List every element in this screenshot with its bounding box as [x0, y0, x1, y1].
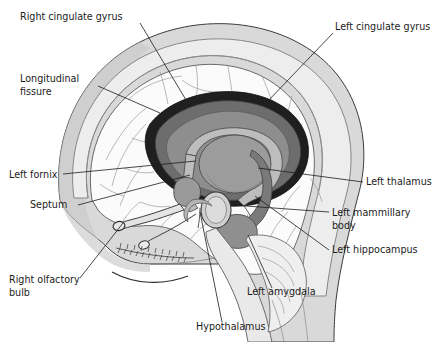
label-left-thalamus: Left thalamus [366, 176, 432, 187]
label-line: Right cingulate gyrus [20, 11, 123, 22]
label-left-hippocampus: Left hippocampus [332, 244, 418, 255]
brain-limbic-system-diagram: Right cingulate gyrusLongitudinalfissure… [0, 0, 441, 342]
label-line: Left hippocampus [332, 244, 418, 255]
label-line: body [332, 220, 356, 231]
label-line: Right olfactory [9, 274, 80, 285]
label-left-amygdala: Left amygdala [247, 286, 316, 297]
label-line: Left cingulate gyrus [335, 21, 430, 32]
mammillary-body-group [201, 192, 231, 228]
label-line: Septum [30, 199, 67, 210]
label-line: Left amygdala [247, 286, 316, 297]
label-hypothalamus: Hypothalamus [196, 321, 266, 332]
label-left-cingulate-gyrus: Left cingulate gyrus [335, 21, 430, 32]
label-line: Longitudinal [20, 73, 79, 84]
label-septum: Septum [30, 199, 67, 210]
label-line: Left fornix [9, 169, 58, 180]
mammillary-body-inner [206, 197, 227, 224]
label-right-cingulate-gyrus: Right cingulate gyrus [20, 11, 123, 22]
label-left-fornix: Left fornix [9, 169, 58, 180]
label-line: bulb [9, 287, 30, 298]
label-line: Left mammillary [332, 207, 411, 218]
label-line: Left thalamus [366, 176, 432, 187]
label-line: fissure [20, 86, 52, 97]
label-line: Hypothalamus [196, 321, 266, 332]
